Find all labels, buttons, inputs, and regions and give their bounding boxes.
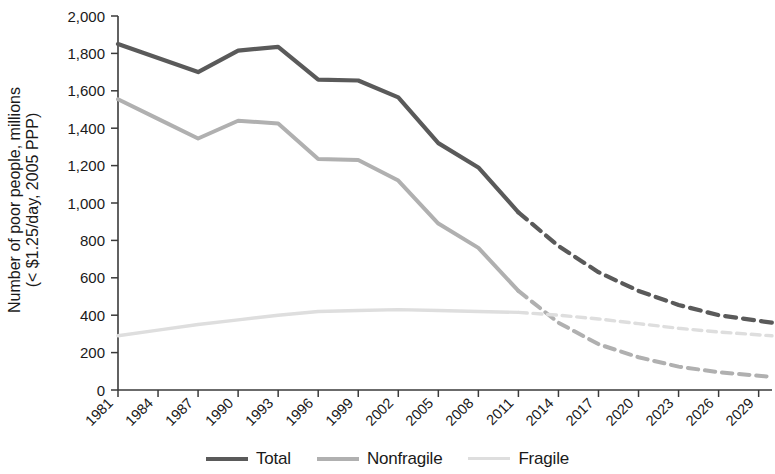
y-axis-ticks: 02004006008001,0001,2001,4001,6001,8002,… [67, 8, 118, 399]
y-tick-label: 1,400 [67, 120, 105, 137]
x-tick-label: 2005 [402, 395, 436, 429]
x-tick-label: 1990 [202, 395, 236, 429]
y-tick-label: 1,800 [67, 45, 105, 62]
x-tick-label: 2002 [362, 395, 396, 429]
legend-swatch-line-icon [317, 457, 359, 461]
x-tick-label: 1993 [242, 395, 276, 429]
y-tick-label: 1,600 [67, 82, 105, 99]
series-lines [118, 44, 772, 377]
x-tick-label: 2023 [643, 395, 677, 429]
legend-item[interactable]: Fragile [468, 449, 569, 469]
legend-swatch-line-icon [468, 457, 510, 460]
x-axis-ticks: 1981198419871990199319961999200220052008… [82, 390, 759, 429]
plot-area: 02004006008001,0001,2001,4001,6001,8002,… [0, 0, 775, 443]
chart-legend: TotalNonfragileFragile [0, 443, 775, 474]
series-line-solid-fragile [118, 310, 518, 336]
x-tick-label: 1987 [162, 395, 196, 429]
legend-swatch-line-icon [206, 457, 248, 461]
series-line-projected-nonfragile [518, 291, 772, 377]
x-tick-label: 1996 [282, 395, 316, 429]
chart-container: Number of poor people, millions (< $1.25… [0, 0, 775, 474]
series-line-projected-total [518, 212, 772, 322]
series-line-solid-nonfragile [118, 99, 518, 291]
legend-label: Total [256, 449, 291, 469]
legend-label: Fragile [518, 449, 569, 469]
x-tick-label: 2020 [603, 395, 637, 429]
x-tick-label: 2029 [723, 395, 757, 429]
legend-item[interactable]: Nonfragile [317, 449, 443, 469]
x-tick-label: 2026 [683, 395, 717, 429]
x-tick-label: 2014 [522, 395, 556, 429]
x-tick-label: 2008 [442, 395, 476, 429]
x-tick-label: 2017 [562, 395, 596, 429]
y-tick-label: 1,000 [67, 195, 105, 212]
y-tick-label: 2,000 [67, 8, 105, 25]
y-tick-label: 600 [80, 269, 105, 286]
x-tick-label: 2011 [483, 395, 516, 428]
x-tick-label: 1999 [322, 395, 356, 429]
legend-label: Nonfragile [367, 449, 443, 469]
y-tick-label: 200 [80, 344, 105, 361]
y-tick-label: 400 [80, 307, 105, 324]
y-tick-label: 800 [80, 232, 105, 249]
y-tick-label: 1,200 [67, 157, 105, 174]
legend-item[interactable]: Total [206, 449, 291, 469]
x-tick-label: 1981 [82, 395, 116, 429]
x-tick-label: 1984 [122, 395, 156, 429]
